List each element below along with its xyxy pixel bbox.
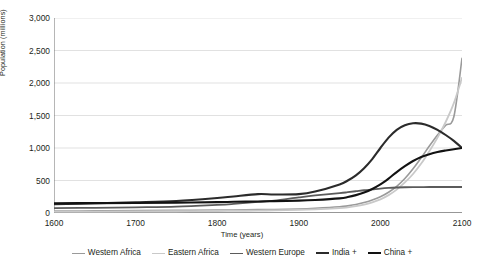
y-tick-label: 1,000 — [8, 143, 50, 153]
legend-item-western-europe[interactable]: Western Europe — [230, 249, 305, 257]
legend-label: Eastern Africa — [168, 249, 219, 257]
x-tick-label: 1700 — [116, 218, 156, 228]
legend-label: China + — [384, 249, 412, 257]
chart-legend: Western AfricaEastern AfricaWestern Euro… — [0, 249, 484, 257]
x-tick-label: 1800 — [197, 218, 237, 228]
x-tick-label: 2100 — [442, 218, 482, 228]
legend-item-india[interactable]: India + — [316, 249, 357, 257]
y-tick-label: 1,500 — [8, 111, 50, 121]
legend-swatch-icon — [230, 253, 243, 254]
legend-swatch-icon — [152, 253, 165, 254]
y-tick-label: 500 — [8, 176, 50, 186]
x-tick-label: 1600 — [34, 218, 74, 228]
legend-label: Western Europe — [246, 249, 305, 257]
legend-label: India + — [332, 249, 357, 257]
y-tick-label: 0 — [8, 208, 50, 218]
legend-label: Western Africa — [88, 249, 141, 257]
legend-item-china[interactable]: China + — [368, 249, 412, 257]
x-tick-label: 1900 — [279, 218, 319, 228]
plot-area — [54, 18, 462, 213]
population-projection-chart: Population (millions) 05001,0001,5002,00… — [0, 0, 484, 277]
x-axis-title: Time (years) — [0, 230, 484, 239]
chart-canvas — [54, 18, 462, 213]
legend-item-eastern-africa[interactable]: Eastern Africa — [152, 249, 219, 257]
legend-swatch-icon — [72, 253, 85, 254]
y-tick-label: 2,000 — [8, 78, 50, 88]
series-line-western-europe — [54, 187, 462, 208]
y-tick-label: 3,000 — [8, 13, 50, 23]
legend-swatch-icon — [368, 252, 381, 254]
y-tick-label: 2,500 — [8, 46, 50, 56]
legend-item-western-africa[interactable]: Western Africa — [72, 249, 141, 257]
legend-swatch-icon — [316, 252, 329, 254]
series-line-india — [54, 123, 462, 204]
x-tick-label: 2000 — [360, 218, 400, 228]
series-line-eastern-africa — [54, 78, 462, 212]
series-lines — [54, 58, 462, 211]
